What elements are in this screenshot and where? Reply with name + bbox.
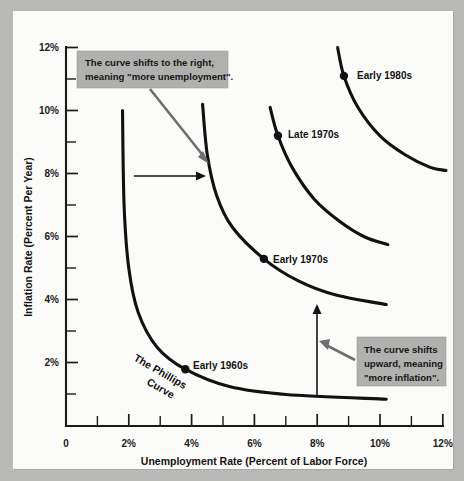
y-tick-label-4: 4% — [45, 294, 60, 305]
y-axis-title: Inflation Rate (Percent Per Year) — [22, 157, 34, 317]
annotation-shift-upward[interactable]: The curve shifts upward, meaning "more i… — [319, 337, 446, 386]
x-axis-tick-labels: 0 2% 4% 6% 8% 10% 12% — [63, 438, 453, 449]
point-label-early-1980s: Early 1980s — [357, 70, 412, 81]
y-tick-label-6: 6% — [45, 231, 60, 242]
x-tick-label-0: 0 — [63, 438, 69, 449]
shift-upward-arrow — [313, 304, 322, 395]
callout-shift-upward-line1: The curve shifts — [364, 344, 438, 355]
point-label-early-1960s: Early 1960s — [193, 360, 248, 371]
point-label-early-1970s: Early 1970s — [273, 254, 328, 265]
x-tick-label-4: 4% — [184, 438, 199, 449]
phillips-curve-1970s-late — [270, 107, 388, 244]
callout-shift-right-line1: The curve shifts to the right, — [85, 57, 214, 68]
callout-shift-right-line2: meaning "more unemployment". — [85, 71, 233, 82]
x-tick-label-12: 12% — [433, 438, 453, 449]
y-axis-ticks — [66, 48, 78, 395]
callout-pointer-shift-right — [150, 89, 205, 158]
x-axis-ticks — [97, 414, 442, 426]
arrowhead-black-up — [313, 304, 322, 314]
shift-right-arrow — [134, 172, 206, 181]
phillips-curve-name-group: The Phillips Curve — [132, 351, 189, 400]
screenshot-root: 12% 10% 8% 6% 4% 2% 0 2% 4% 6% — [0, 0, 464, 481]
annotation-shift-right[interactable]: The curve shifts to the right, meaning "… — [77, 51, 233, 164]
y-tick-label-12: 12% — [39, 42, 59, 53]
arrowhead-black-right — [196, 172, 206, 181]
x-tick-label-8: 8% — [310, 438, 325, 449]
x-axis-title: Unemployment Rate (Percent of Labor Forc… — [141, 455, 367, 467]
phillips-curve-1980s-early — [338, 48, 446, 171]
point-label-late-1970s: Late 1970s — [288, 129, 340, 140]
x-tick-label-10: 10% — [370, 438, 390, 449]
phillips-curve-chart: 12% 10% 8% 6% 4% 2% 0 2% 4% 6% — [0, 0, 464, 481]
x-tick-label-6: 6% — [247, 438, 262, 449]
y-tick-label-10: 10% — [39, 105, 59, 116]
data-point-early-1980s[interactable] — [340, 72, 348, 80]
data-point-late-1970s[interactable] — [274, 132, 282, 140]
y-tick-label-2: 2% — [45, 357, 60, 368]
y-axis-tick-labels: 12% 10% 8% 6% 4% 2% — [39, 42, 59, 368]
data-point-markers — [181, 72, 348, 374]
x-tick-label-2: 2% — [122, 438, 137, 449]
callout-pointer-shift-upward — [326, 345, 355, 360]
callout-shift-upward-line3: "more inflation". — [364, 372, 439, 383]
y-tick-label-8: 8% — [45, 168, 60, 179]
callout-shift-upward-line2: upward, meaning — [364, 358, 443, 369]
data-point-early-1960s[interactable] — [181, 365, 189, 373]
arrowhead-gray-left — [319, 339, 330, 350]
data-point-early-1970s[interactable] — [260, 255, 268, 263]
data-point-labels: Early 1960s Early 1970s Late 1970s Early… — [193, 70, 412, 371]
